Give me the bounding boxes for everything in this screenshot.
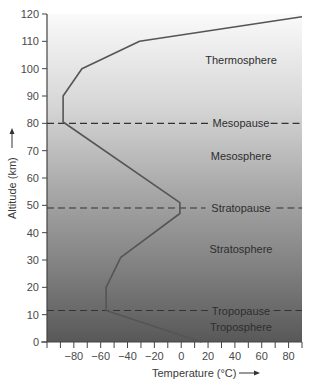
y-axis-arrow-icon bbox=[10, 128, 15, 148]
x-tick-label: −20 bbox=[145, 350, 164, 362]
y-tick-label: 0 bbox=[33, 336, 39, 348]
y-tick-label: 90 bbox=[27, 90, 39, 102]
y-tick-label: 50 bbox=[27, 199, 39, 211]
y-tick-label: 60 bbox=[27, 172, 39, 184]
x-tick-label: 80 bbox=[282, 350, 294, 362]
x-tick-label: −40 bbox=[118, 350, 137, 362]
x-axis-title: Temperature (°C) bbox=[152, 367, 236, 379]
stratopause-label: Stratopause bbox=[211, 202, 270, 214]
x-tick-label: 60 bbox=[256, 350, 268, 362]
y-tick-label: 20 bbox=[27, 281, 39, 293]
mesosphere-label: Mesosphere bbox=[211, 150, 272, 162]
thermosphere-label: Thermosphere bbox=[205, 54, 277, 66]
atmosphere-temperature-chart: 0102030405060708090100110120 −80−60−40−2… bbox=[0, 0, 310, 388]
x-tick-label: 20 bbox=[202, 350, 214, 362]
x-axis: −80−60−40−20020406080 bbox=[41, 342, 302, 362]
y-axis: 0102030405060708090100110120 bbox=[21, 8, 47, 348]
troposphere-label: Troposphere bbox=[210, 321, 272, 333]
x-tick-label: −80 bbox=[65, 350, 84, 362]
y-tick-label: 120 bbox=[21, 8, 39, 20]
y-tick-label: 10 bbox=[27, 309, 39, 321]
x-tick-label: −60 bbox=[91, 350, 110, 362]
y-tick-label: 100 bbox=[21, 63, 39, 75]
y-tick-label: 80 bbox=[27, 117, 39, 129]
y-tick-label: 70 bbox=[27, 145, 39, 157]
stratosphere-label: Stratosphere bbox=[210, 243, 273, 255]
mesopause-label: Mesopause bbox=[213, 117, 270, 129]
y-tick-label: 30 bbox=[27, 254, 39, 266]
y-axis-title: Altitude (km) bbox=[6, 157, 18, 219]
x-axis-arrow-icon bbox=[239, 371, 260, 376]
y-tick-label: 110 bbox=[21, 35, 39, 47]
tropopause-label: Tropopause bbox=[212, 305, 270, 317]
x-tick-label: 40 bbox=[229, 350, 241, 362]
x-tick-label: 0 bbox=[178, 350, 184, 362]
y-tick-label: 40 bbox=[27, 227, 39, 239]
